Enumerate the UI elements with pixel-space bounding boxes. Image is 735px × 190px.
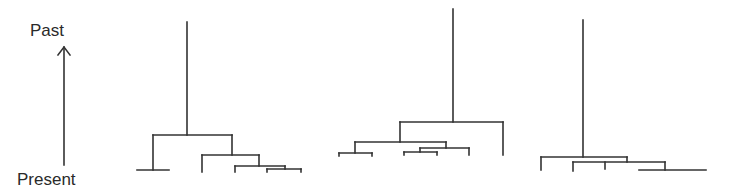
trees-canvas (0, 0, 735, 190)
phylogeny-figure: Past Present (0, 0, 735, 190)
time-arrow-icon (58, 47, 70, 165)
tree-1 (137, 22, 301, 172)
trees-group (137, 9, 706, 172)
tree-3 (541, 20, 706, 171)
tree-2 (339, 9, 503, 156)
